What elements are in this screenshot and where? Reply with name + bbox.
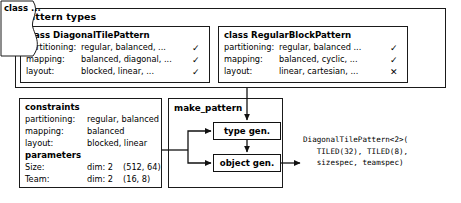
wire-constraints-to-typegen — [188, 131, 211, 150]
connector-wires — [0, 0, 461, 203]
wire-constraints-to-objectgen — [188, 150, 211, 163]
diagram-canvas: Pattern types class DiagonalTilePattern … — [0, 0, 461, 203]
output-expression: DiagonalTilePattern<2>( TILED(32), TILED… — [303, 134, 461, 169]
